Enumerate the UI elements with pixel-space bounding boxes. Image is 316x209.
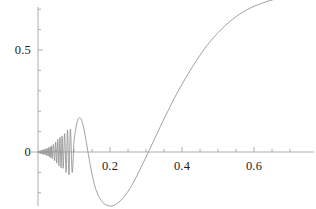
y-tick-label: 0 bbox=[25, 146, 31, 159]
x-tick-label: 0.4 bbox=[174, 160, 190, 173]
data-curve-chirp bbox=[38, 0, 297, 206]
x-axis-ticks bbox=[56, 147, 290, 152]
chart-canvas bbox=[0, 0, 316, 209]
y-tick-label: 0.5 bbox=[15, 44, 31, 57]
chart-figure: 0.50 0.20.40.6 bbox=[0, 0, 316, 209]
x-tick-label: 0.6 bbox=[246, 160, 262, 173]
y-axis-ticks bbox=[38, 9, 43, 193]
axis-group bbox=[31, 7, 314, 206]
x-tick-label: 0.2 bbox=[102, 160, 118, 173]
